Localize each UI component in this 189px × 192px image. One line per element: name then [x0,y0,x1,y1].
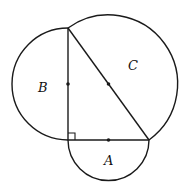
label-a: A [103,153,113,168]
midpoint-hypotenuse [107,82,111,86]
label-c: C [128,58,138,73]
semicircle-c [68,15,178,140]
midpoint-vertical-leg [66,82,70,86]
right-angle-marker [68,133,75,140]
label-b: B [37,80,48,95]
diagram-canvas: B C A [0,0,189,192]
midpoint-horizontal-leg [107,138,111,142]
